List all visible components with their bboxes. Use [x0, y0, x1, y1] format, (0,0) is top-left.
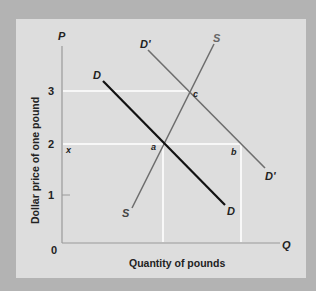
tick-label-2: 2	[48, 138, 54, 150]
demand-curve-d	[103, 81, 225, 205]
curve-label-dprime-top: D'	[140, 38, 151, 50]
curve-label-dprime-bottom: D'	[265, 170, 276, 182]
y-axis-title: Dollar price of one pound	[29, 97, 41, 224]
x-axis-title: Quantity of pounds	[129, 257, 225, 269]
tick-label-3: 3	[48, 85, 54, 97]
curve-label-d-bottom: D	[227, 205, 235, 217]
curve-label-s-bottom: S	[122, 207, 130, 219]
curve-label-s-top: S	[213, 32, 221, 44]
point-label-c: c	[193, 89, 198, 99]
demand-curve-d-prime	[148, 50, 265, 168]
x-axis-symbol: Q	[282, 239, 291, 251]
point-label-x: x	[65, 145, 72, 155]
supply-curve-s	[132, 44, 214, 208]
tick-label-1: 1	[48, 189, 54, 201]
point-label-a: a	[151, 142, 156, 152]
point-label-b: b	[231, 147, 237, 157]
curve-label-d-top: D	[93, 69, 101, 81]
supply-demand-chart: P Q 3 2 1 0 x a b c D D D' D' S S Quanti…	[0, 0, 316, 291]
tick-label-0: 0	[51, 244, 57, 256]
y-axis-symbol: P	[58, 30, 66, 42]
